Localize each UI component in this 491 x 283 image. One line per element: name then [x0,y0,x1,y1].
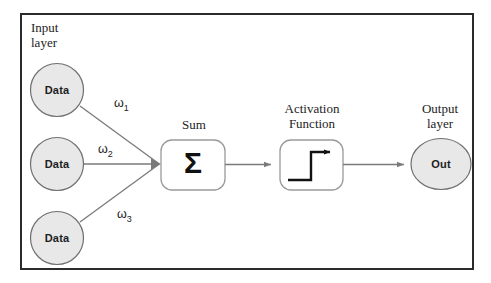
weight-label-2: ω2 [98,142,113,159]
arrowhead-into-sum [151,159,161,170]
input-node-3-label: Data [32,232,82,244]
input-layer-label: Input layer [31,20,58,50]
weight-label-3: ω3 [117,207,132,224]
diagram-canvas: Input layer Sum Activation Function Outp… [0,0,491,283]
output-layer-label: Output layer [405,101,475,131]
input-node-2-label: Data [32,158,82,170]
weight-1-subscript: 1 [124,103,129,113]
weight-2-omega: ω [98,142,108,156]
weight-label-1: ω1 [114,96,129,113]
weight-1-omega: ω [114,96,124,110]
activation-function-label: Activation Function [272,101,352,131]
weight-3-subscript: 3 [127,214,132,224]
sigma-symbol: Σ [161,148,225,178]
weight-3-omega: ω [117,207,127,221]
connector-data1-to-sum [80,106,158,163]
output-node-label: Out [416,158,466,170]
weight-2-subscript: 2 [108,149,113,159]
input-node-1-label: Data [32,84,82,96]
sum-label: Sum [168,117,220,132]
